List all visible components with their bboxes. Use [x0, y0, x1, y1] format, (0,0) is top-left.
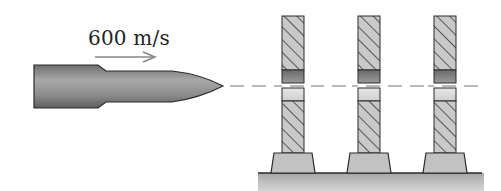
- diagram-canvas: 600 m/s: [0, 0, 501, 191]
- post-2: [347, 16, 391, 173]
- velocity-arrow-icon: [95, 52, 155, 62]
- post-1-base: [271, 153, 315, 173]
- bullet: [34, 65, 223, 108]
- ground: [258, 173, 484, 191]
- post-2-base: [347, 153, 391, 173]
- post-3-base: [423, 153, 467, 173]
- post-1: [271, 16, 315, 173]
- post-3: [423, 16, 467, 173]
